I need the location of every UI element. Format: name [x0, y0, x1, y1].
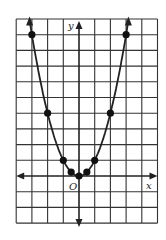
x-axis-label: x	[146, 181, 152, 191]
data-point	[44, 110, 51, 117]
data-point	[91, 157, 98, 164]
y-axis-arrow-up-icon	[76, 21, 83, 29]
origin-label: O	[69, 182, 77, 192]
data-point	[60, 157, 67, 164]
data-point	[75, 172, 82, 179]
x-axis-arrow-right-icon	[150, 173, 158, 180]
data-point	[68, 168, 75, 175]
data-point	[123, 31, 130, 38]
data-point	[107, 110, 114, 117]
parabola-plot	[0, 0, 166, 240]
y-axis-label: y	[68, 21, 74, 31]
data-point	[83, 168, 90, 175]
x-axis-arrow-left-icon	[16, 173, 24, 180]
data-point	[28, 31, 35, 38]
